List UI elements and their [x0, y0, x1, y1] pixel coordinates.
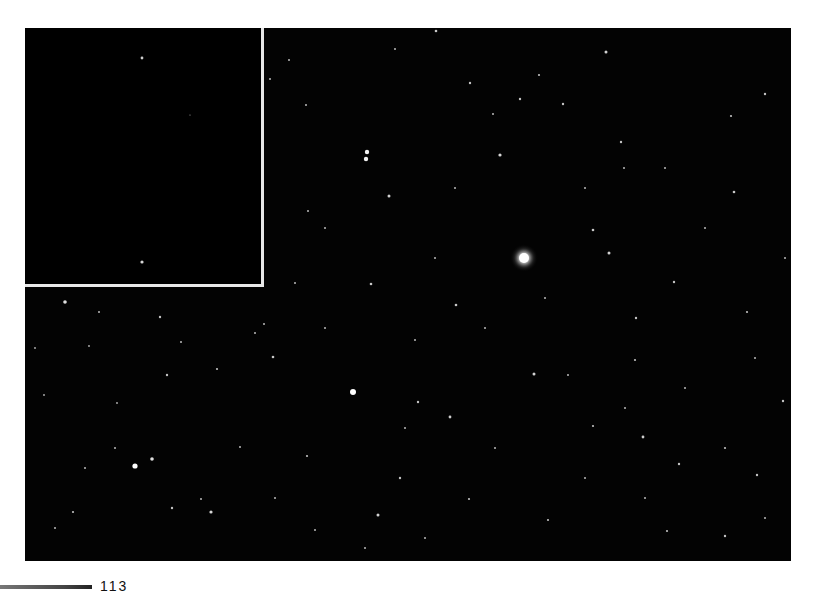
star: [544, 297, 546, 299]
star: [764, 93, 766, 95]
star: [784, 257, 786, 259]
star: [200, 498, 202, 500]
star: [294, 282, 296, 284]
star: [567, 374, 569, 376]
star: [635, 317, 637, 319]
star: [394, 48, 396, 50]
page: 113: [0, 0, 818, 591]
star: [684, 387, 686, 389]
inset-stars: [140, 57, 190, 264]
star: [63, 300, 67, 304]
star: [533, 373, 536, 376]
star: [424, 537, 426, 539]
star: [171, 507, 173, 509]
star: [664, 167, 666, 169]
star: [88, 345, 90, 347]
star: [494, 447, 496, 449]
scale-label: 113: [100, 579, 128, 591]
star: [756, 474, 758, 476]
star: [274, 497, 276, 499]
star: [132, 463, 137, 468]
star: [377, 514, 380, 517]
star: [72, 511, 74, 513]
star: [116, 402, 118, 404]
star: [263, 323, 265, 325]
star: [364, 157, 368, 161]
star: [54, 527, 56, 529]
star: [519, 98, 521, 100]
star: [634, 359, 636, 361]
star: [608, 252, 611, 255]
star: [605, 51, 608, 54]
star: [305, 104, 307, 106]
star: [620, 141, 622, 143]
star: [455, 304, 458, 307]
star: [180, 341, 182, 343]
star: [454, 187, 456, 189]
star: [159, 316, 161, 318]
star: [673, 281, 675, 283]
star: [254, 332, 256, 334]
star: [584, 477, 586, 479]
star: [189, 114, 190, 115]
star: [746, 311, 748, 313]
star: [724, 447, 726, 449]
star-field-image: [25, 28, 791, 561]
star: [733, 191, 736, 194]
star: [417, 401, 419, 403]
star: [370, 283, 373, 286]
star: [324, 227, 326, 229]
star: [764, 517, 766, 519]
star: [98, 311, 100, 313]
star: [666, 530, 668, 532]
star: [724, 535, 726, 537]
star: [449, 416, 452, 419]
bright-star: [510, 244, 538, 272]
star: [272, 356, 275, 359]
star: [43, 394, 45, 396]
star: [624, 407, 626, 409]
star: [469, 82, 471, 84]
star: [306, 455, 308, 457]
star: [547, 519, 549, 521]
star: [350, 389, 356, 395]
star: [399, 477, 401, 479]
inset-canvas: [25, 28, 261, 284]
star: [592, 229, 595, 232]
star: [782, 400, 784, 402]
star: [434, 257, 436, 259]
star: [140, 260, 143, 263]
star: [754, 357, 756, 359]
star: [592, 425, 594, 427]
star: [364, 547, 366, 549]
star: [435, 30, 438, 33]
star: [216, 368, 218, 370]
star: [562, 103, 564, 105]
star: [642, 436, 645, 439]
star: [644, 497, 646, 499]
star: [623, 167, 625, 169]
inset-panel: [25, 28, 264, 287]
star: [34, 347, 36, 349]
bright-star-core: [519, 253, 529, 263]
star: [269, 78, 271, 80]
star: [141, 57, 144, 60]
star: [730, 115, 732, 117]
star: [678, 463, 680, 465]
star: [538, 74, 540, 76]
star: [498, 153, 501, 156]
star: [492, 113, 494, 115]
star: [404, 427, 406, 429]
star: [166, 374, 168, 376]
star: [704, 227, 706, 229]
star: [84, 467, 86, 469]
scale-bar: [0, 585, 92, 589]
star: [307, 210, 309, 212]
star: [314, 529, 316, 531]
star: [365, 150, 369, 154]
star: [209, 510, 212, 513]
star: [288, 59, 290, 61]
star: [414, 339, 416, 341]
star: [484, 327, 486, 329]
star: [114, 447, 116, 449]
